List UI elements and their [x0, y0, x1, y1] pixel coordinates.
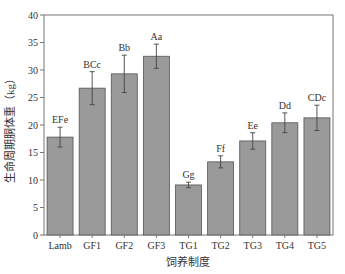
x-axis-title: 饲养制度 [166, 255, 210, 268]
significance-label: CDc [308, 92, 327, 103]
y-tick-label: 25 [28, 92, 38, 103]
bar [240, 141, 266, 235]
x-tick-label: TG3 [244, 240, 262, 251]
significance-label: Ee [247, 120, 258, 131]
bar [272, 123, 298, 235]
x-tick-label: TG1 [179, 240, 197, 251]
bar-chart: 0510152025303540EFeLambBCcGF1BbGF2AaGF3G… [0, 0, 345, 274]
y-tick-label: 35 [28, 37, 38, 48]
significance-label: EFe [52, 114, 69, 125]
y-axis-title: 生命周期胴体重（kg） [3, 73, 16, 183]
bar [176, 185, 202, 235]
bar [143, 56, 169, 235]
x-tick-label: GF3 [147, 240, 165, 251]
x-tick-label: TG5 [308, 240, 326, 251]
y-tick-label: 0 [33, 230, 38, 241]
significance-label: Aa [151, 31, 163, 42]
significance-label: Dd [279, 100, 291, 111]
y-tick-label: 5 [33, 202, 38, 213]
bar [79, 88, 105, 235]
y-tick-label: 40 [28, 10, 38, 21]
significance-label: Bb [118, 42, 130, 53]
x-tick-label: TG2 [211, 240, 229, 251]
significance-label: BCc [83, 59, 101, 70]
bar [47, 137, 73, 235]
significance-label: Ff [216, 143, 226, 154]
y-tick-label: 15 [28, 147, 38, 158]
x-tick-label: TG4 [276, 240, 294, 251]
plot-area: 0510152025303540EFeLambBCcGF1BbGF2AaGF3G… [28, 10, 333, 252]
y-tick-label: 30 [28, 65, 38, 76]
x-tick-label: GF2 [115, 240, 133, 251]
x-tick-label: Lamb [48, 240, 71, 251]
y-tick-label: 10 [28, 175, 38, 186]
significance-label: Gg [182, 169, 194, 180]
x-tick-label: GF1 [83, 240, 101, 251]
bar [111, 74, 137, 235]
y-tick-label: 20 [28, 120, 38, 131]
bar [208, 162, 234, 235]
bar [304, 118, 330, 235]
